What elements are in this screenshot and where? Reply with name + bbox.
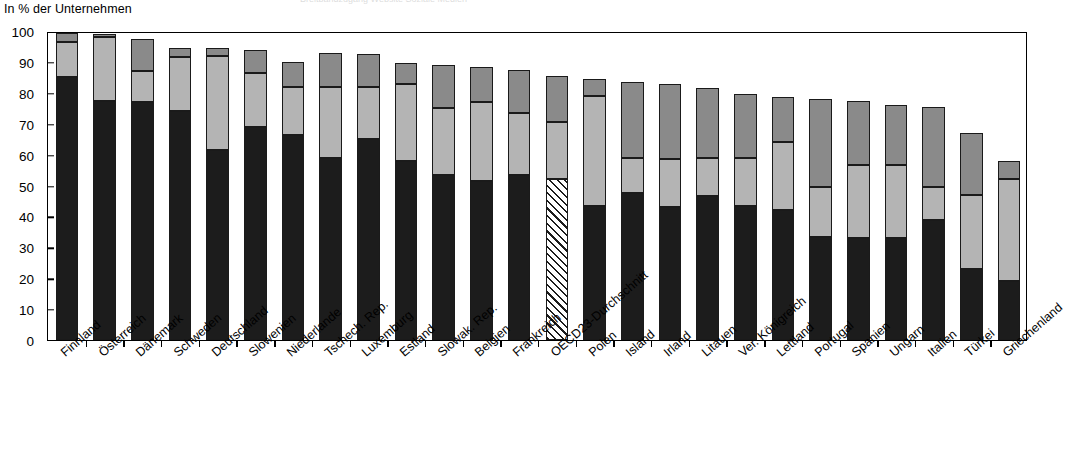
y-tick-mark [47, 62, 54, 63]
x-tick-label: Türkei [962, 326, 997, 359]
x-tick-label: Polen [586, 328, 619, 360]
x-tick-label: Island [623, 327, 657, 359]
y-tick-mark [47, 309, 54, 310]
y-tick-mark [47, 155, 54, 156]
x-tick-label: Finnland [58, 318, 103, 360]
x-tick-label: Irland [661, 328, 694, 359]
y-tick-mark [47, 217, 54, 218]
y-tick-mark [47, 124, 54, 125]
x-tick-label: Griechenland [1000, 300, 1065, 359]
y-tick-mark [47, 93, 54, 94]
y-tick-mark [47, 248, 54, 249]
x-tick-label: Italien [925, 327, 959, 359]
x-tick-label: Ungarn [887, 322, 927, 359]
y-tick-mark [47, 186, 54, 187]
x-tick-label: Litauen [699, 322, 739, 359]
x-tick-label: Spanien [849, 319, 893, 360]
x-tick-label: Portugal [812, 318, 856, 359]
y-tick-mark [47, 278, 54, 279]
